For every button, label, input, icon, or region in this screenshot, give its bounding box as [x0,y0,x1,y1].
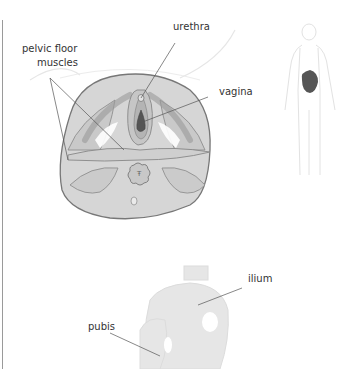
body-contour-right [180,30,235,78]
anus-mark: Ŧ [136,170,142,178]
label-ilium: ilium [248,273,272,285]
locator-figure [285,24,335,175]
label-urethra: urethra [173,21,210,33]
label-pelvic-floor: pelvic floor [22,43,77,55]
label-vagina: vagina [219,86,253,98]
label-pubis: pubis [88,321,115,333]
coccyx [131,197,137,205]
leader-pelvic-left [50,78,68,160]
label-muscles: muscles [37,57,78,69]
locator-pelvis-highlight [302,70,318,93]
body-contour [30,69,80,80]
obturator-foramen [202,312,218,332]
anatomy-illustration: Ŧ [0,0,360,369]
pubis-gap [164,337,172,353]
